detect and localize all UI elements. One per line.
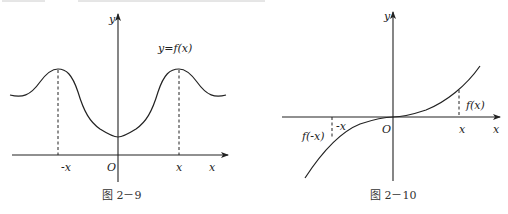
origin-label: O [382, 123, 391, 136]
y-axis-label: y [108, 13, 116, 26]
figure-2-10: y f(-x) -x O f(x) x x 图 2－10 [282, 10, 500, 202]
y-axis-label: y [383, 10, 391, 23]
tick-label-pos-x: x [176, 161, 183, 174]
figure-caption: 图 2－9 [102, 189, 142, 202]
x-axis-label: x [493, 123, 500, 136]
x-axis-label: x [209, 161, 216, 174]
value-label-f-neg-x: f(-x) [301, 130, 325, 143]
tick-label-neg-x: -x [336, 120, 347, 133]
figure-caption: 图 2－10 [370, 189, 417, 202]
value-label-f-x: f(x) [465, 99, 485, 112]
function-label: y=f(x) [157, 42, 192, 55]
figure-2-9: y y=f(x) -x O x x 图 2－9 [10, 13, 228, 202]
origin-label: O [107, 161, 116, 174]
figures-canvas: y y=f(x) -x O x x 图 2－9 y f(-x) -x O f(x… [0, 0, 508, 214]
tick-label-pos-x: x [459, 123, 466, 136]
tick-label-neg-x: -x [61, 161, 72, 174]
